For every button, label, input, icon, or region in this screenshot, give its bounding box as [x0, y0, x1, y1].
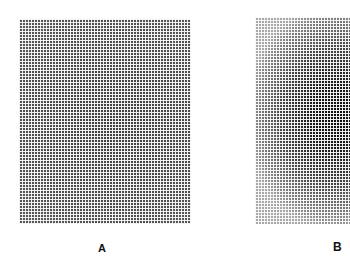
panel-a-label: A — [98, 242, 106, 254]
panel-b-image — [255, 17, 350, 224]
panel-a-image — [19, 19, 191, 224]
panel-a-grid — [19, 19, 191, 224]
panel-b-grid — [255, 17, 350, 224]
panel-b-label: B — [333, 240, 342, 254]
